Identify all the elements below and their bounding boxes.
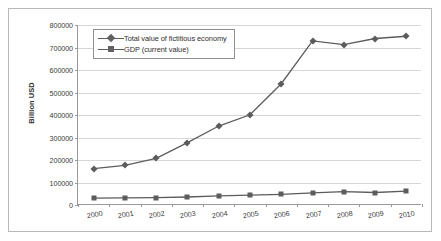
x-tick-mark [422, 204, 423, 207]
x-tick-label: 2006 [273, 209, 290, 220]
x-tick-label: 2002 [148, 209, 165, 220]
x-tick-label: 2000 [86, 209, 103, 220]
legend-marker [98, 44, 124, 55]
y-tick-label: 500000 [50, 88, 73, 97]
x-tick-label: 2010 [398, 209, 415, 220]
x-tick-label: 2005 [242, 209, 259, 220]
y-tick-label: 0 [69, 201, 73, 210]
y-tick-label: 200000 [50, 156, 73, 165]
y-tick-label: 600000 [50, 66, 73, 75]
legend-item: Total value of fictitious economy [98, 33, 227, 44]
legend-label: Total value of fictitious economy [124, 34, 227, 43]
x-tick-label: 2004 [211, 209, 228, 220]
x-tick-label: 2003 [180, 209, 197, 220]
legend-marker [98, 33, 124, 44]
y-tick-label: 100000 [50, 178, 73, 187]
legend-item: GDP (current value) [98, 44, 227, 55]
series-line [94, 191, 407, 198]
legend-label: GDP (current value) [124, 45, 189, 54]
chart-container: Billion USD 0100000200000300000400000500… [8, 8, 432, 232]
y-tick-label: 400000 [50, 111, 73, 120]
x-tick-label: 2007 [305, 209, 322, 220]
diamond-marker-icon [107, 34, 115, 42]
y-axis-title: Billion USD [27, 82, 36, 123]
y-tick-label: 700000 [50, 43, 73, 52]
chart-legend: Total value of fictitious economyGDP (cu… [93, 29, 235, 59]
x-tick-label: 2008 [336, 209, 353, 220]
y-tick-label: 800000 [50, 21, 73, 30]
square-marker-icon [108, 46, 114, 52]
x-tick-label: 2009 [367, 209, 384, 220]
x-tick-label: 2001 [117, 209, 134, 220]
y-tick-label: 300000 [50, 133, 73, 142]
